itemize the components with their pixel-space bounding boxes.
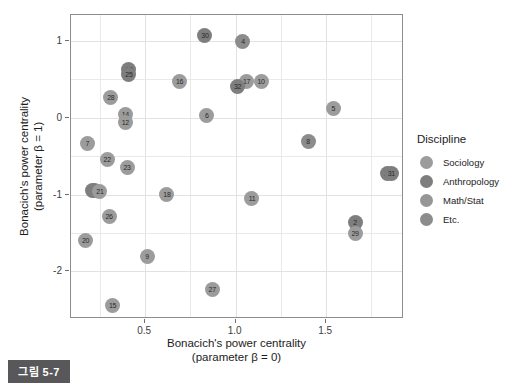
data-point[interactable]: 6	[199, 108, 214, 123]
data-point-label: 26	[105, 213, 112, 220]
data-point[interactable]: 9	[140, 249, 155, 264]
scatter-plot-area: 3041925161710322814612578222324311332118…	[70, 14, 403, 318]
legend-swatch-circle-icon	[420, 156, 433, 169]
gridline-horizontal	[71, 195, 402, 196]
data-point[interactable]: 8	[301, 134, 316, 149]
data-point-label: 20	[82, 237, 89, 244]
legend-item-math-stat[interactable]: Math/Stat	[417, 191, 522, 210]
data-point-label: 15	[109, 302, 116, 309]
y-axis-title-line2: (parameter β = 1)	[31, 14, 45, 318]
data-point-label: 23	[124, 164, 131, 171]
data-point-label: 12	[122, 119, 129, 126]
data-point[interactable]: 22	[100, 152, 115, 167]
data-point-label: 5	[332, 105, 336, 112]
data-point[interactable]: 7	[80, 136, 95, 151]
data-point[interactable]: 11	[244, 191, 259, 206]
y-tick-mark	[65, 40, 69, 41]
data-point[interactable]: 31	[384, 166, 399, 181]
data-point[interactable]: 23	[120, 160, 135, 175]
data-point[interactable]: 20	[78, 233, 93, 248]
legend-title: Discipline	[417, 133, 522, 145]
data-point-label: 29	[352, 230, 359, 237]
data-point[interactable]: 10	[254, 74, 269, 89]
data-point-label: 9	[145, 253, 149, 260]
x-tick-mark	[235, 319, 236, 323]
x-tick-label: 0.5	[137, 325, 151, 336]
data-point-label: 21	[96, 188, 103, 195]
data-point-label: 18	[163, 191, 170, 198]
x-tick-mark	[325, 319, 326, 323]
data-point-label: 4	[241, 38, 245, 45]
data-point-label: 30	[201, 32, 208, 39]
data-point[interactable]: 12	[118, 115, 133, 130]
legend-item-etc-[interactable]: Etc.	[417, 210, 522, 229]
y-tick-mark	[65, 270, 69, 271]
legend-item-label: Math/Stat	[443, 195, 484, 206]
data-point[interactable]: 15	[105, 298, 120, 313]
y-tick-mark	[65, 194, 69, 195]
y-tick-mark	[65, 117, 69, 118]
legend-item-sociology[interactable]: Sociology	[417, 153, 522, 172]
figure-container: 3041925161710322814612578222324311332118…	[0, 0, 525, 387]
legend-item-anthropology[interactable]: Anthropology	[417, 172, 522, 191]
data-point[interactable]: 28	[103, 90, 118, 105]
data-point[interactable]: 26	[102, 209, 117, 224]
x-tick-label: 1.5	[318, 325, 332, 336]
data-point-label: 31	[388, 170, 395, 177]
gridline-horizontal	[71, 271, 402, 272]
legend-swatch-circle-icon	[420, 175, 433, 188]
data-point[interactable]: 18	[159, 187, 174, 202]
legend: Discipline SociologyAnthropologyMath/Sta…	[417, 133, 522, 229]
data-point-label: 11	[249, 195, 256, 202]
data-point-label: 8	[306, 138, 310, 145]
x-axis-title: Bonacich's power centrality (parameter β…	[70, 336, 403, 365]
data-point[interactable]: 27	[205, 282, 220, 297]
data-point-label: 22	[104, 156, 111, 163]
data-point-label: 7	[85, 140, 89, 147]
x-axis-title-line2: (parameter β = 0)	[70, 350, 403, 364]
legend-swatch-circle-icon	[420, 194, 433, 207]
data-point[interactable]: 32	[230, 79, 245, 94]
data-point-label: 25	[125, 71, 132, 78]
data-point-label: 27	[209, 286, 216, 293]
data-point-label: 32	[234, 83, 241, 90]
data-point[interactable]: 16	[172, 74, 187, 89]
data-point[interactable]: 25	[121, 67, 136, 82]
y-axis-title-line1: Bonacich's power centrality	[17, 14, 31, 318]
data-point-label: 28	[107, 94, 114, 101]
data-point-label: 10	[257, 78, 264, 85]
legend-item-label: Etc.	[443, 214, 459, 225]
legend-swatch-circle-icon	[420, 213, 433, 226]
data-point[interactable]: 29	[348, 226, 363, 241]
data-point[interactable]: 5	[326, 101, 341, 116]
legend-item-label: Anthropology	[443, 176, 499, 187]
data-point[interactable]: 21	[92, 184, 107, 199]
data-point[interactable]: 4	[235, 34, 250, 49]
legend-item-label: Sociology	[443, 157, 484, 168]
x-tick-label: 1.0	[228, 325, 242, 336]
y-axis-title: Bonacich's power centrality (parameter β…	[17, 14, 46, 318]
legend-items: SociologyAnthropologyMath/StatEtc.	[417, 153, 522, 229]
data-point-label: 6	[205, 112, 209, 119]
x-axis-title-line1: Bonacich's power centrality	[70, 336, 403, 350]
x-tick-mark	[144, 319, 145, 323]
figure-caption-badge: 그림 5-7	[8, 360, 70, 383]
data-point-label: 2	[353, 219, 357, 226]
gridline-horizontal	[71, 156, 402, 157]
data-point-label: 16	[176, 78, 183, 85]
